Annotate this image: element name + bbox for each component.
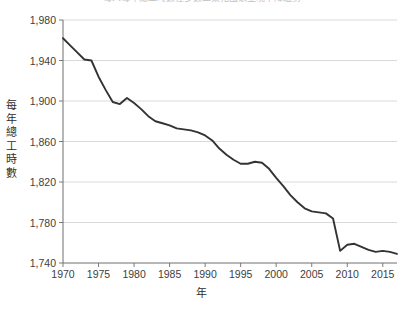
plot-area [0,0,403,310]
x-axis-tick-label: 2010 [327,269,367,280]
y-axis-tick-label: 1,740 [14,258,56,268]
y-axis-tick-label: 1,900 [14,96,56,106]
y-axis-tick-label: 1,980 [14,15,56,25]
x-axis-ticks [63,263,383,267]
chart-container: 每人每年總工時數在多數工業化國家呈現下降趨勢 每 年 總 工 時 數 年 1,9… [0,0,403,310]
x-axis-tick-label: 1985 [150,269,190,280]
y-axis-tick-label: 1,780 [14,218,56,228]
data-series-line [63,38,397,254]
y-axis-ticks [59,20,63,263]
gridlines [63,20,397,223]
x-axis-tick-label: 1975 [79,269,119,280]
y-axis-tick-label: 1,860 [14,137,56,147]
y-axis-tick-label: 1,820 [14,177,56,187]
y-axis-tick-label: 1,940 [14,56,56,66]
x-axis-tick-label: 2000 [256,269,296,280]
x-axis-tick-label: 2005 [292,269,332,280]
x-axis-tick-label: 1995 [221,269,261,280]
x-axis-tick-label: 1970 [43,269,83,280]
x-axis-tick-label: 1990 [185,269,225,280]
x-axis-tick-label: 2015 [363,269,403,280]
x-axis-tick-label: 1980 [114,269,154,280]
